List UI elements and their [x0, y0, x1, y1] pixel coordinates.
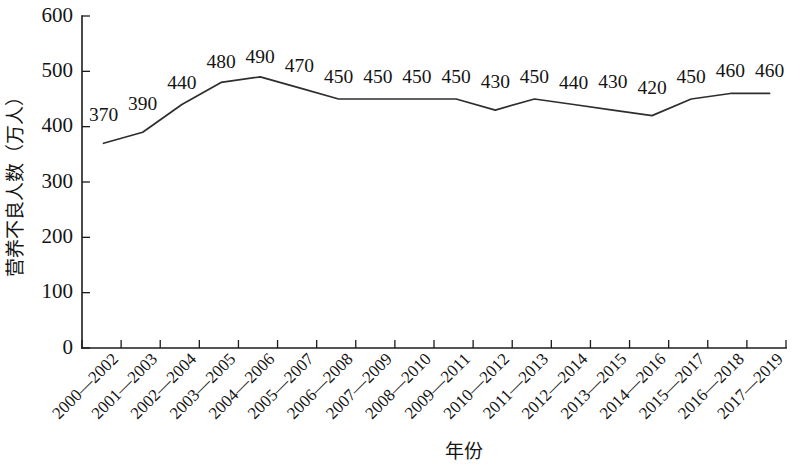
data-point-label: 390	[128, 93, 157, 114]
data-series-line	[104, 77, 770, 143]
data-point-labels: 3703904404804904704504504504504304504404…	[89, 46, 784, 125]
y-axis-group: 0100200300400500600	[42, 3, 91, 359]
data-point-label: 470	[285, 55, 314, 76]
x-axis-group: 2000—20022001—20032002—20042003—20052004…	[48, 340, 786, 423]
data-point-label: 430	[598, 71, 627, 92]
y-tick-label: 300	[42, 169, 74, 193]
y-tick-label: 100	[42, 279, 74, 303]
data-point-label: 370	[89, 104, 118, 125]
data-point-label: 420	[637, 77, 666, 98]
data-point-label: 440	[167, 72, 196, 93]
data-point-label: 450	[402, 66, 431, 87]
line-chart: 0100200300400500600 2000—20022001—200320…	[0, 0, 796, 470]
data-point-label: 430	[481, 71, 510, 92]
y-axis-tick-labels: 0100200300400500600	[42, 3, 74, 359]
data-point-label: 450	[324, 66, 353, 87]
data-point-label: 490	[246, 46, 275, 67]
y-tick-label: 600	[42, 3, 74, 27]
y-axis-title: 营养不良人数（万人）	[5, 87, 26, 277]
data-point-label: 450	[520, 66, 549, 87]
x-axis-ticks	[82, 340, 786, 348]
data-point-label: 480	[206, 51, 235, 72]
plot-area: 3703904404804904704504504504504304504404…	[89, 46, 784, 143]
data-point-label: 460	[716, 60, 745, 81]
data-point-label: 460	[755, 60, 784, 81]
data-point-label: 450	[677, 66, 706, 87]
x-axis-title: 年份	[445, 441, 483, 462]
y-axis-ticks	[82, 16, 90, 348]
y-tick-label: 0	[63, 335, 74, 359]
data-point-label: 450	[442, 66, 471, 87]
y-tick-label: 400	[42, 113, 74, 137]
data-point-label: 450	[363, 66, 392, 87]
chart-container: 0100200300400500600 2000—20022001—200320…	[0, 0, 796, 470]
y-tick-label: 200	[42, 224, 74, 248]
y-tick-label: 500	[42, 58, 74, 82]
data-point-label: 440	[559, 72, 588, 93]
x-axis-tick-labels: 2000—20022001—20032002—20042003—20052004…	[48, 349, 786, 423]
